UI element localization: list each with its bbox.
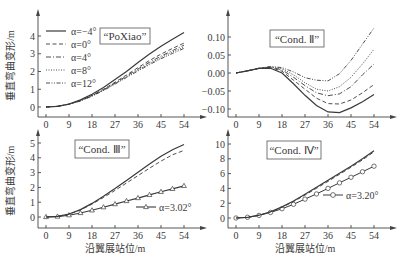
y-tick-label: 2 — [30, 66, 35, 77]
x-tick-label: 27 — [300, 119, 310, 130]
x-tick-label: 54 — [369, 230, 379, 241]
series-line — [46, 47, 184, 107]
x-tick-label: 54 — [179, 230, 189, 241]
series-annotation: α=3.20° — [323, 190, 378, 201]
y-tick-label: 1 — [30, 197, 35, 208]
panel-title-box: “Cond. Ⅱ” — [270, 30, 324, 47]
series-annotation: α=3.02° — [136, 202, 191, 213]
x-axis-label: 沿翼展站位/m — [275, 242, 336, 254]
x-arrow-icon — [390, 115, 397, 119]
circle-marker-icon — [314, 192, 318, 196]
x-tick-label: 0 — [234, 230, 239, 241]
x-tick-label: 18 — [277, 119, 287, 130]
y-tick-label: 3 — [30, 167, 35, 178]
x-tick-label: 18 — [87, 230, 97, 241]
y-tick-label: 4 — [30, 152, 35, 163]
y-arrow-icon — [226, 129, 230, 136]
y-tick-label: 8 — [220, 153, 225, 164]
x-tick-label: 0 — [44, 230, 49, 241]
y-tick-label: 3 — [30, 48, 35, 59]
y-axis-label: 垂直弯曲变形/m — [4, 30, 16, 101]
y-tick-label: 0 — [30, 102, 35, 113]
panel-title-box: “PoXiao” — [100, 28, 150, 44]
legend-entry: α=12° — [71, 78, 96, 89]
x-tick-label: 45 — [156, 230, 166, 241]
x-tick-label: 9 — [67, 230, 72, 241]
panel-poxiao: 09182736455401234垂直弯曲变形/m“PoXiao”α=−4°α=… — [4, 9, 207, 130]
x-tick-label: 36 — [323, 230, 333, 241]
panel-cond-3: 091827364554012345垂直弯曲变形/m沿翼展站位/m“Cond. … — [4, 129, 207, 254]
y-tick-label: 4 — [30, 31, 35, 42]
series-line — [236, 49, 374, 91]
series-line — [236, 151, 374, 218]
panel-title: “Cond. Ⅱ” — [275, 33, 319, 45]
y-tick-label: 0 — [30, 212, 35, 223]
figure-canvas: 09182736455401234垂直弯曲变形/m“PoXiao”α=−4°α=… — [0, 0, 406, 265]
legend: α=−4°α=0°α=4°α=8°α=12° — [46, 26, 97, 89]
y-tick-label: 0.00 — [208, 68, 226, 79]
x-arrow-icon — [200, 226, 207, 230]
y-tick-label: 1 — [30, 84, 35, 95]
y-axis-label: 垂直弯曲变形/m — [4, 146, 16, 217]
y-tick-label: 4 — [220, 183, 225, 194]
series-line — [46, 45, 184, 107]
panel-cond-4: 0918273645540246810沿翼展站位/m“Cond. Ⅳ”α=3.2… — [215, 129, 397, 254]
x-tick-label: 27 — [300, 230, 310, 241]
y-tick-label: −0.05 — [202, 86, 225, 97]
legend-entry: α=−4° — [71, 26, 97, 37]
x-tick-label: 0 — [234, 119, 239, 130]
x-tick-label: 0 — [44, 119, 49, 130]
series-line — [236, 152, 374, 218]
circle-marker-icon — [349, 175, 353, 179]
x-tick-label: 27 — [110, 119, 120, 130]
x-tick-label: 54 — [369, 119, 379, 130]
x-tick-label: 9 — [257, 119, 262, 130]
panel-title: “Cond. Ⅲ” — [78, 143, 125, 155]
axes: 09182736455401234垂直弯曲变形/m — [4, 9, 207, 130]
x-tick-label: 27 — [110, 230, 120, 241]
y-tick-label: 0.10 — [208, 32, 226, 43]
circle-marker-icon — [331, 193, 336, 198]
x-axis-label: 沿翼展站位/m — [85, 242, 146, 254]
annotation-label: α=3.20° — [346, 190, 378, 201]
panel-title: “Cond. Ⅳ” — [269, 144, 318, 156]
y-tick-label: −0.10 — [202, 104, 225, 115]
x-tick-label: 18 — [277, 230, 287, 241]
y-tick-label: 10 — [215, 139, 225, 150]
x-tick-label: 45 — [346, 230, 356, 241]
panel-title-box: “Cond. Ⅲ” — [75, 140, 129, 158]
series-line — [46, 43, 184, 107]
x-tick-label: 36 — [133, 119, 143, 130]
x-tick-label: 45 — [156, 119, 166, 130]
circle-marker-icon — [337, 181, 341, 185]
x-tick-label: 54 — [179, 119, 189, 130]
y-tick-label: 6 — [220, 168, 225, 179]
x-arrow-icon — [200, 115, 207, 119]
panel-title: “PoXiao” — [104, 30, 147, 42]
x-tick-label: 36 — [133, 230, 143, 241]
legend-entry: α=0° — [71, 39, 91, 50]
x-tick-label: 45 — [346, 119, 356, 130]
y-tick-label: 0.05 — [208, 50, 226, 61]
axes: 091827364554−0.10−0.050.000.050.10 — [202, 9, 397, 130]
circle-marker-icon — [326, 186, 330, 190]
figure-caption — [0, 255, 406, 265]
y-arrow-icon — [36, 9, 40, 16]
series-group — [234, 151, 376, 221]
panel-cond-2: 091827364554−0.10−0.050.000.050.10“Cond.… — [202, 9, 397, 130]
circle-marker-icon — [360, 170, 364, 174]
legend-entry: α=8° — [71, 65, 91, 76]
y-arrow-icon — [36, 129, 40, 136]
x-tick-label: 9 — [67, 119, 72, 130]
y-tick-label: 2 — [220, 198, 225, 209]
y-tick-label: 0 — [220, 213, 225, 224]
circle-marker-icon — [303, 197, 307, 201]
y-tick-label: 5 — [30, 138, 35, 149]
y-arrow-icon — [226, 9, 230, 16]
legend-entry: α=4° — [71, 52, 91, 63]
x-arrow-icon — [390, 226, 397, 230]
triangle-marker-icon — [182, 183, 187, 187]
annotation-label: α=3.02° — [159, 202, 191, 213]
circle-marker-icon — [372, 164, 376, 168]
y-tick-label: 2 — [30, 182, 35, 193]
